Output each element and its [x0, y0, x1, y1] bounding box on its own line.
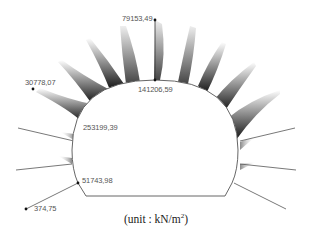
tunnel-stress-figure: [0, 0, 312, 238]
stress-diagram: 79153,49 141206,59 30778,07 253199,39 51…: [0, 0, 312, 238]
label-shoulder-outer: 30778,07: [25, 78, 55, 87]
label-crown-outer: 79153,49: [122, 14, 152, 23]
label-shoulder-inner: 253199,39: [83, 123, 118, 132]
unit-caption: (unit : kN/m2): [0, 212, 312, 225]
label-invert-corner-inner: 51743,98: [82, 176, 112, 185]
label-crown-inner: 141206,59: [138, 85, 173, 94]
